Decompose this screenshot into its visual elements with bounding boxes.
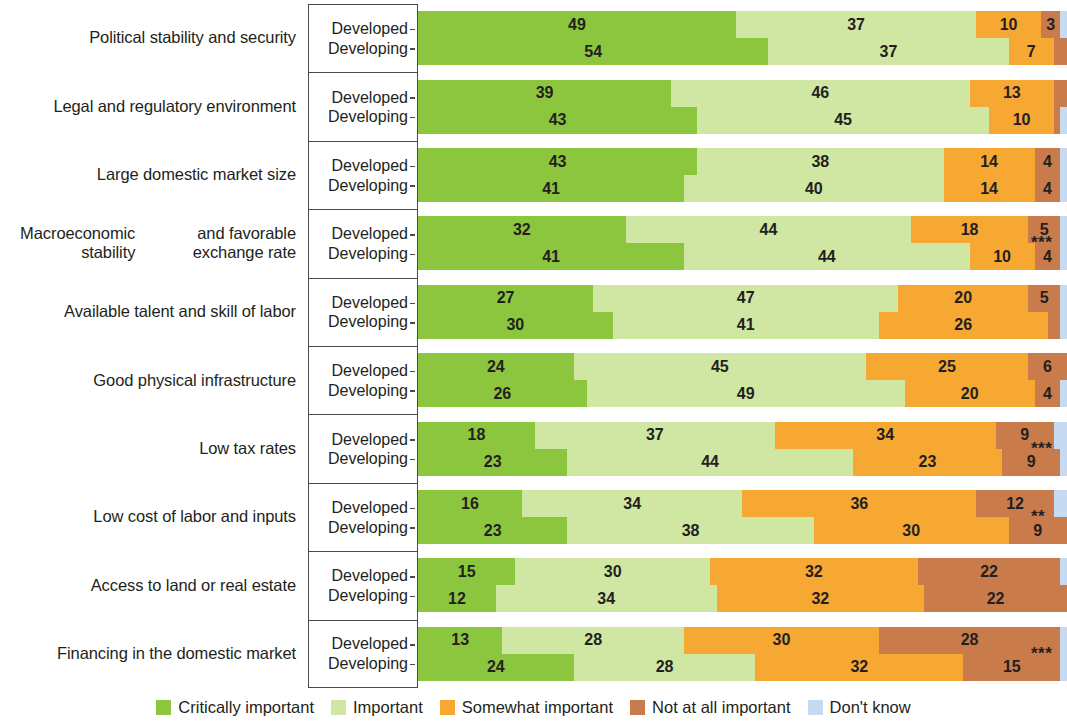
- segment-value: 49: [568, 16, 586, 34]
- segment-value: 10: [993, 248, 1011, 266]
- bar-segment: 32: [418, 216, 626, 243]
- stacked-bar: 39461320: [418, 80, 1067, 107]
- group-name-developed: Developed: [309, 634, 417, 654]
- segment-value: 39: [536, 84, 554, 102]
- bar-segment: 3: [1041, 11, 1060, 38]
- bar-segment: 13: [970, 80, 1054, 107]
- segment-value: 23: [484, 453, 502, 471]
- segment-value: 9: [1020, 426, 1029, 444]
- segment-value: 30: [773, 631, 791, 649]
- segment-value: 43: [549, 111, 567, 129]
- bar-segment: 39: [418, 80, 671, 107]
- segment-value: 22: [987, 590, 1005, 608]
- bars-column: 3946132043451011: [418, 72, 1067, 140]
- bar-segment: 38: [567, 517, 814, 544]
- bar-segment: 2: [1054, 38, 1067, 65]
- segment-value: 4: [1043, 180, 1052, 198]
- chart-category-row: Low tax ratesDevelopedDeveloping18373492…: [0, 414, 1067, 482]
- bar-segment: 4: [1035, 148, 1061, 175]
- group-name-developing: Developing: [309, 176, 417, 196]
- segment-value: 4: [1043, 153, 1052, 171]
- segment-value: 22: [980, 563, 998, 581]
- segment-value: 12: [448, 590, 466, 608]
- group-name-developing: Developing: [309, 39, 417, 59]
- bar-segment: 44: [684, 243, 970, 270]
- segment-value: 15: [458, 563, 476, 581]
- legend-swatch-icon: [156, 700, 171, 715]
- category-label: Financing in the domestic market: [0, 620, 308, 688]
- segment-value: 4: [1043, 248, 1052, 266]
- segment-value: 20: [954, 289, 972, 307]
- bars-column: 132830281242832151: [418, 620, 1067, 688]
- category-label-line: Access to land or real estate: [91, 576, 296, 595]
- bar-segment: 22: [918, 558, 1061, 585]
- segment-value: 27: [497, 289, 515, 307]
- group-name-developed: Developed: [309, 361, 417, 381]
- legend-swatch-icon: [440, 700, 455, 715]
- bar-segment: 1: [1060, 380, 1066, 407]
- group-name-developing: Developing: [309, 381, 417, 401]
- stacked-bar: 27472051: [418, 285, 1067, 312]
- segment-value: 46: [811, 84, 829, 102]
- segment-value: 44: [760, 221, 778, 239]
- bar-segment: 32: [717, 585, 925, 612]
- bar-segment: 41: [418, 243, 684, 270]
- segment-value: 36: [850, 495, 868, 513]
- bar-segment: 37: [535, 422, 775, 449]
- segment-value: 32: [811, 590, 829, 608]
- group-name-developed: Developed: [309, 293, 417, 313]
- chart-category-row: Low cost of labor and inputsDevelopedDev…: [0, 483, 1067, 551]
- group-name-column: DevelopedDeveloping: [308, 620, 418, 688]
- segment-value: 28: [656, 658, 674, 676]
- bars-column: 2445256026492041: [418, 346, 1067, 414]
- bar-segment: 37: [736, 11, 976, 38]
- legend-item: Don't know: [808, 698, 911, 717]
- segment-value: 30: [604, 563, 622, 581]
- category-label-line: Macroeconomic stability: [0, 224, 135, 263]
- group-name-column: DevelopedDeveloping: [308, 72, 418, 140]
- stacked-bar: 32441851: [418, 216, 1067, 243]
- segment-value: 13: [1003, 84, 1021, 102]
- group-name-developed: Developed: [309, 156, 417, 176]
- stacked-bar: 23383090: [418, 517, 1067, 544]
- segment-value: 9: [1033, 522, 1042, 540]
- bar-segment: 41: [418, 175, 684, 202]
- category-label-line: Legal and regulatory environment: [53, 97, 296, 116]
- bar-segment: 12: [418, 585, 496, 612]
- bar-segment: 1: [1060, 312, 1066, 339]
- segment-value: 12: [1006, 495, 1024, 513]
- segment-value: 16: [461, 495, 479, 513]
- bar-segment: 30: [684, 627, 879, 654]
- bar-segment: 1: [1060, 285, 1066, 312]
- bar-segment: 43: [418, 148, 697, 175]
- bar-segment: 49: [418, 11, 736, 38]
- segment-value: 34: [623, 495, 641, 513]
- segment-value: 23: [484, 522, 502, 540]
- segment-value: 41: [542, 248, 560, 266]
- bar-segment: 23: [853, 449, 1002, 476]
- chart-category-row: Financing in the domestic marketDevelope…: [0, 620, 1067, 688]
- bar-segment: 26: [879, 312, 1048, 339]
- category-label: Good physical infrastructure: [0, 346, 308, 414]
- bar-segment: 38: [697, 148, 944, 175]
- group-name-developed: Developed: [309, 498, 417, 518]
- segment-value: 20: [961, 385, 979, 403]
- bar-segment: 23: [418, 517, 567, 544]
- category-label-line: and favorable exchange rate: [135, 224, 296, 263]
- segment-value: 43: [549, 153, 567, 171]
- bars-column: 1837349223442391: [418, 414, 1067, 482]
- bar-segment: 14: [944, 175, 1035, 202]
- category-label-line: Low cost of labor and inputs: [93, 507, 296, 526]
- segment-value: 45: [834, 111, 852, 129]
- group-name-column: DevelopedDeveloping: [308, 551, 418, 619]
- segment-value: 10: [1000, 16, 1018, 34]
- bar-segment: 24: [418, 654, 574, 681]
- segment-value: 37: [646, 426, 664, 444]
- category-label: Low cost of labor and inputs: [0, 483, 308, 551]
- segment-value: 32: [850, 658, 868, 676]
- bar-segment: 54: [418, 38, 768, 65]
- segment-value: 38: [682, 522, 700, 540]
- bar-segment: 4: [1035, 380, 1061, 407]
- group-name-developing: Developing: [309, 449, 417, 469]
- bar-segment: 22: [924, 585, 1067, 612]
